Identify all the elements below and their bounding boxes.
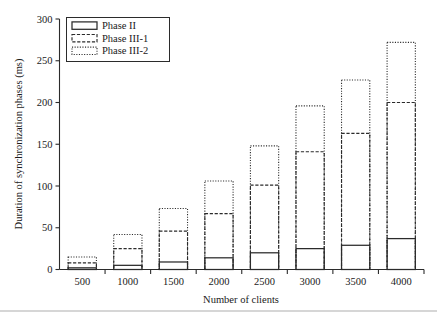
x-axis-title: Number of clients [203, 294, 279, 305]
bar-2500-dotted [250, 146, 278, 270]
bar-3000-dashed [296, 152, 324, 270]
x-axis-tick-labels: 5001000150020002500300035004000 [74, 276, 411, 287]
bar-2500-dashed [250, 185, 278, 269]
legend-label: Phase III-2 [102, 45, 148, 56]
y-tick-label: 50 [42, 222, 53, 233]
x-axis: 5001000150020002500300035004000 Number o… [60, 270, 425, 306]
x-tick-label: 2000 [208, 276, 229, 287]
bar-3000-dotted [296, 106, 324, 270]
bar-2000-solid [205, 258, 233, 270]
bar-3500-dashed [342, 133, 370, 269]
legend-label: Phase II [102, 20, 137, 31]
x-tick-label: 2500 [254, 276, 275, 287]
x-tick-label: 1000 [117, 276, 138, 287]
legend: Phase IIPhase III-1Phase III-2 [67, 18, 170, 62]
bar-500-solid [68, 268, 96, 270]
bar-3500-solid [342, 245, 370, 269]
y-tick-label: 300 [37, 14, 53, 25]
bar-4000-solid [387, 239, 415, 270]
bar-1000-solid [114, 265, 142, 269]
bars-group [68, 42, 415, 269]
bar-2000-dotted [205, 181, 233, 270]
bar-500-dashed [68, 263, 96, 270]
bar-1500-solid [159, 262, 187, 270]
y-axis-tick-labels: 050100150200250300 [37, 14, 53, 276]
bar-4000-dotted [387, 42, 415, 269]
bar-1000-dotted [114, 234, 142, 269]
bar-1500-dotted [159, 209, 187, 270]
x-tick-label: 500 [74, 276, 90, 287]
legend-label: Phase III-1 [102, 33, 148, 44]
bar-1000-dashed [114, 249, 142, 270]
bar-2000-dashed [205, 214, 233, 270]
bar-3000-solid [296, 249, 324, 270]
y-tick-label: 100 [37, 181, 53, 192]
x-tick-label: 4000 [391, 276, 412, 287]
x-tick-label: 1500 [163, 276, 184, 287]
x-axis-ticks [105, 270, 424, 275]
stacked-bar-chart: 050100150200250300 Duration of synchroni… [0, 0, 437, 315]
y-axis: 050100150200250300 Duration of synchroni… [13, 14, 60, 276]
y-tick-label: 150 [37, 139, 53, 150]
x-tick-label: 3000 [300, 276, 321, 287]
y-tick-label: 250 [37, 55, 53, 66]
y-tick-label: 0 [47, 264, 52, 275]
y-axis-title: Duration of synchronization phases (ms) [13, 58, 25, 229]
y-tick-label: 200 [37, 97, 53, 108]
bar-1500-dashed [159, 231, 187, 269]
bar-3500-dotted [342, 80, 370, 270]
bar-4000-dashed [387, 103, 415, 270]
y-axis-ticks [56, 19, 60, 270]
x-tick-label: 3500 [345, 276, 366, 287]
chart-figure: 050100150200250300 Duration of synchroni… [0, 0, 437, 315]
bar-2500-solid [250, 253, 278, 270]
